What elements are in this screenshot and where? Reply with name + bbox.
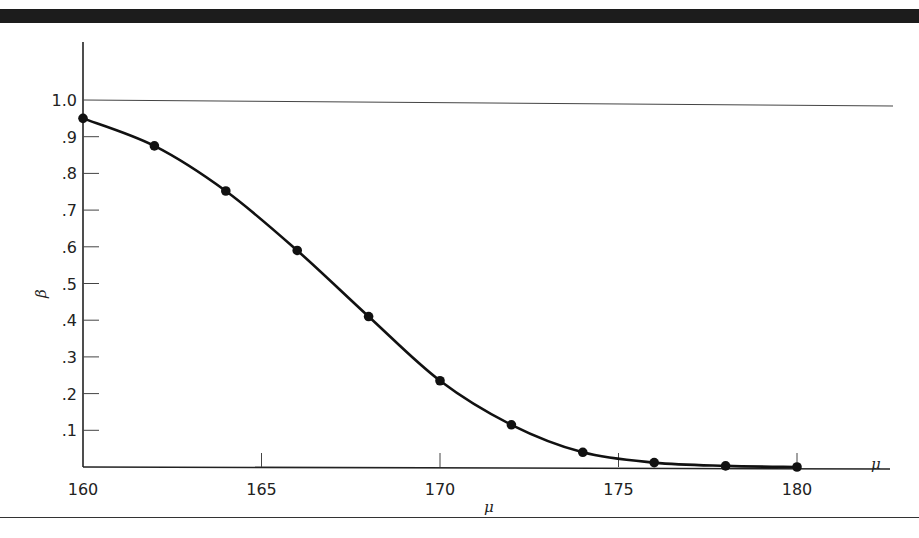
data-point	[649, 458, 659, 468]
data-point	[507, 420, 517, 430]
data-point	[150, 141, 160, 151]
reference-line-1	[83, 100, 893, 106]
axes	[83, 42, 893, 469]
data-points	[78, 114, 802, 472]
y-tick-label: .4	[62, 311, 77, 330]
x-axis-ticks: 160165170175180	[68, 453, 813, 499]
power-curve-chart: .1.2.3.4.5.6.7.8.91.0 160165170175180 μ …	[0, 0, 919, 538]
y-tick-label: .8	[62, 164, 77, 183]
x-tick-label: 170	[425, 480, 456, 499]
y-tick-label: .5	[62, 275, 77, 294]
x-tick-label: 160	[68, 480, 99, 499]
y-axis-ticks: .1.2.3.4.5.6.7.8.91.0	[52, 91, 99, 440]
y-tick-label: .3	[62, 348, 77, 367]
data-point	[364, 312, 374, 322]
data-point	[578, 448, 588, 458]
data-point	[292, 246, 302, 256]
x-tick-label: 175	[603, 480, 634, 499]
y-tick-label: .2	[62, 385, 77, 404]
y-tick-label: .1	[62, 421, 77, 440]
y-tick-label: .9	[62, 128, 77, 147]
y-axis-title: β	[32, 289, 50, 299]
x-tick-label: 180	[782, 480, 813, 499]
data-point	[221, 186, 231, 196]
data-curve	[83, 118, 797, 467]
data-point	[721, 461, 731, 471]
x-axis-end-label: μ	[871, 455, 881, 473]
x-tick-label: 165	[246, 480, 277, 499]
data-point	[78, 114, 88, 124]
y-tick-label: .6	[62, 238, 77, 257]
data-point	[792, 462, 802, 472]
y-tick-label: .7	[62, 201, 77, 220]
x-axis-title: μ	[484, 498, 494, 516]
data-point	[435, 376, 445, 386]
y-tick-label: 1.0	[52, 91, 77, 110]
